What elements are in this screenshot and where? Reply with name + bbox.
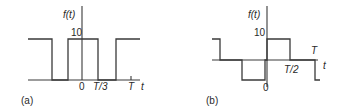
panel-a: f(t) 10 0 T/3 T t (a) [21,6,145,106]
pulse-train-a [28,39,140,80]
tick-label-t2: T/2 [284,64,299,75]
tick-label-t-b: T [311,45,318,56]
amplitude-label-a: 10 [71,27,83,38]
xaxis-label-a: t [141,81,145,92]
tick-label-t3: T/3 [93,81,108,92]
caption-a: (a) [21,95,33,106]
ylabel-b: f(t) [248,9,260,20]
origin-label-a: 0 [79,81,85,92]
square-wave-b [212,39,320,80]
tick-label-t-a: T [128,81,135,92]
panel-b: f(t) 10 0 T/2 T t (b) [206,6,327,106]
figure: f(t) 10 0 T/3 T t (a) f(t) 10 0 T/2 T t … [0,0,343,111]
amplitude-label-b: 10 [254,27,266,38]
ylabel-a: f(t) [63,9,75,20]
origin-label-b: 0 [263,82,269,93]
caption-b: (b) [206,95,218,106]
xaxis-label-b: t [323,60,327,71]
